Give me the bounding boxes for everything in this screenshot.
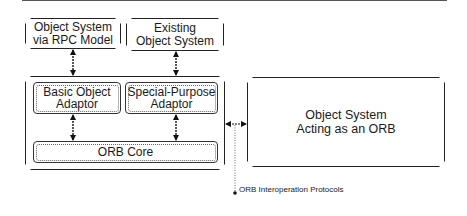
basic-object-adaptor-label: Basic Object Adaptor bbox=[43, 86, 110, 110]
existing-object-system-label: Existing Object System bbox=[136, 22, 214, 48]
orb-interoperation-protocols-label: ORB Interoperation Protocols bbox=[239, 185, 344, 194]
orb-core-label: ORB Core bbox=[98, 146, 153, 158]
orb-object-system-box: Object System Acting as an ORB bbox=[247, 77, 445, 167]
rpc-object-system-box: Object System via RPC Model bbox=[25, 18, 121, 49]
rpc-object-system-label: Object System via RPC Model bbox=[33, 21, 113, 47]
orb-object-system-label: Object System Acting as an ORB bbox=[296, 108, 395, 136]
special-purpose-adaptor-box: Special-Purpose Adaptor bbox=[125, 82, 218, 114]
special-purpose-adaptor-label: Special-Purpose Adaptor bbox=[127, 86, 215, 110]
annotation-leader-line bbox=[233, 125, 237, 195]
basic-object-adaptor-box: Basic Object Adaptor bbox=[33, 82, 121, 114]
top-rule bbox=[22, 0, 447, 1]
orb-core-box: ORB Core bbox=[33, 141, 218, 163]
existing-object-system-box: Existing Object System bbox=[126, 18, 224, 51]
